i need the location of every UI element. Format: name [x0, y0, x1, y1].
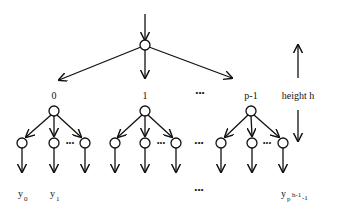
tree-diagram: 0 1 ••• p-1 height h ••• ••• ••• ••• y 0…	[0, 0, 337, 216]
branch-label-p-1: p-1	[244, 90, 257, 101]
leaf-node	[80, 138, 90, 148]
svg-text:y: y	[281, 188, 286, 199]
leaf-node	[110, 138, 120, 148]
branch-label-1: 1	[143, 90, 148, 101]
edge-root-0	[59, 47, 141, 80]
edge-root-p-1	[149, 47, 232, 78]
node-1	[140, 106, 150, 116]
node-p-1	[246, 106, 256, 116]
leaf-node	[247, 138, 257, 148]
svg-text:1: 1	[56, 195, 60, 203]
leaf-group-ellipsis: •••	[263, 139, 272, 148]
svg-text:p: p	[287, 195, 291, 203]
leaf-label-ellipsis: •••	[194, 185, 203, 195]
leaf-label-last: y p h-1 -1	[281, 188, 308, 203]
svg-text:0: 0	[24, 195, 28, 203]
svg-text:y: y	[50, 188, 55, 199]
svg-text:y: y	[18, 188, 23, 199]
leaf-node	[17, 138, 27, 148]
branch-ellipsis: •••	[195, 88, 204, 98]
leaf-node	[171, 138, 181, 148]
leaf-node	[278, 138, 288, 148]
root-node	[140, 40, 150, 50]
svg-text:-1: -1	[302, 194, 308, 202]
group-ellipsis: •••	[194, 138, 203, 148]
height-label: height h	[282, 90, 315, 101]
leaf-label-y0: y 0	[18, 188, 28, 203]
leaf-group-ellipsis: •••	[157, 139, 166, 148]
leaf-node	[49, 138, 59, 148]
leaf-node	[140, 138, 150, 148]
svg-text:h-1: h-1	[292, 191, 302, 199]
node-0	[49, 106, 59, 116]
branch-label-0: 0	[52, 90, 57, 101]
leaf-group-ellipsis: •••	[66, 139, 75, 148]
leaf-node	[216, 138, 226, 148]
leaf-label-y1: y 1	[50, 188, 60, 203]
